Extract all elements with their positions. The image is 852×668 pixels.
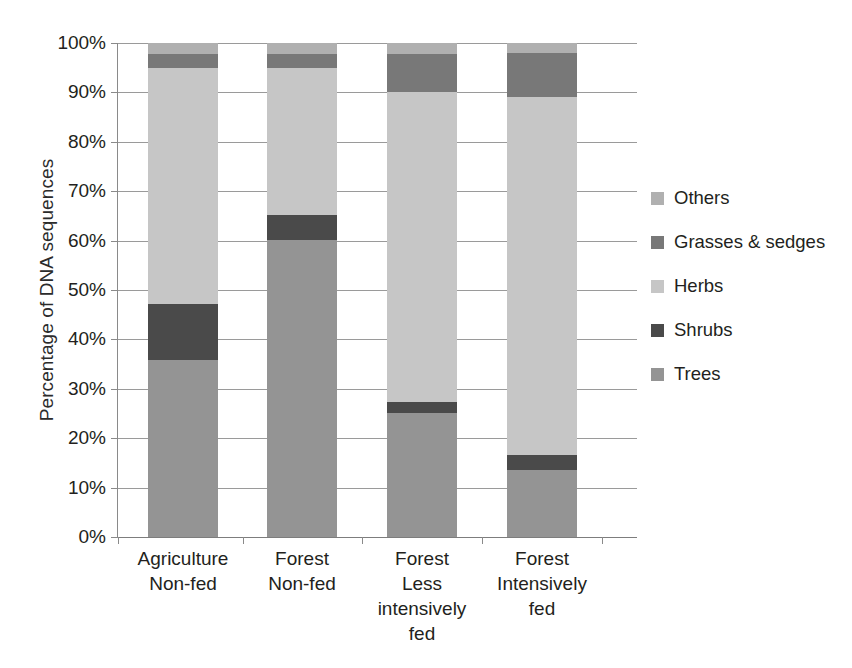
- bar-segment-herbs: [387, 92, 457, 402]
- x-category-label: ForestNon-fed: [232, 546, 372, 596]
- y-tick-label: 40%: [48, 328, 106, 350]
- y-tick-label: 90%: [48, 81, 106, 103]
- x-category-label: ForestIntensivelyfed: [472, 546, 612, 621]
- y-tick-label: 20%: [48, 427, 106, 449]
- y-tick-mark: [111, 389, 118, 390]
- bar-segment-grasses-sedges: [387, 54, 457, 93]
- bar-segment-others: [387, 43, 457, 54]
- x-tick-mark: [482, 537, 483, 544]
- bar-segment-shrubs: [267, 215, 337, 240]
- y-tick-mark: [111, 191, 118, 192]
- legend-swatch-icon: [651, 192, 664, 205]
- legend-item-shrubs: Shrubs: [651, 308, 851, 352]
- x-category-label-line: Intensively: [472, 571, 612, 596]
- bar-segment-grasses-sedges: [507, 53, 577, 97]
- x-category-label-line: Forest: [472, 546, 612, 571]
- legend-label: Shrubs: [674, 319, 733, 341]
- bar-2: [267, 43, 337, 537]
- y-tick-mark: [111, 290, 118, 291]
- y-tick-label: 50%: [48, 279, 106, 301]
- bar-3: [387, 43, 457, 537]
- legend-swatch-icon: [651, 280, 664, 293]
- y-tick-mark: [111, 488, 118, 489]
- y-tick-mark: [111, 142, 118, 143]
- x-category-label-line: intensively: [352, 596, 492, 621]
- bar-segment-grasses-sedges: [267, 54, 337, 68]
- y-tick-mark: [111, 92, 118, 93]
- x-tick-mark: [602, 537, 603, 544]
- y-tick-label: 80%: [48, 131, 106, 153]
- legend-label: Herbs: [674, 275, 723, 297]
- legend-swatch-icon: [651, 368, 664, 381]
- y-tick-label: 60%: [48, 230, 106, 252]
- x-category-label-line: fed: [472, 596, 612, 621]
- y-tick-mark: [111, 438, 118, 439]
- bar-segment-trees: [267, 240, 337, 537]
- plot-area: [118, 43, 637, 537]
- bar-segment-herbs: [148, 68, 218, 304]
- bar-segment-others: [507, 43, 577, 53]
- bar-segment-herbs: [267, 68, 337, 215]
- y-tick-mark: [111, 339, 118, 340]
- bar-segment-shrubs: [387, 402, 457, 413]
- x-category-label-line: Less: [352, 571, 492, 596]
- bar-segment-trees: [148, 360, 218, 537]
- y-tick-label: 100%: [48, 32, 106, 54]
- bar-segment-grasses-sedges: [148, 54, 218, 68]
- legend-label: Grasses & sedges: [674, 231, 825, 253]
- bar-1: [148, 43, 218, 537]
- x-category-label-line: Non-fed: [232, 571, 372, 596]
- y-tick-label: 30%: [48, 378, 106, 400]
- x-tick-mark: [118, 537, 119, 544]
- legend-item-trees: Trees: [651, 352, 851, 396]
- y-tick-label: 70%: [48, 180, 106, 202]
- legend-label: Trees: [674, 363, 721, 385]
- bar-segment-trees: [387, 413, 457, 537]
- bar-segment-others: [267, 43, 337, 54]
- y-tick-mark: [111, 43, 118, 44]
- bar-4: [507, 43, 577, 537]
- x-category-label-line: Forest: [232, 546, 372, 571]
- bar-segment-shrubs: [507, 455, 577, 470]
- y-tick-label: 0%: [48, 526, 106, 548]
- bar-segment-herbs: [507, 97, 577, 455]
- legend-item-grasses-sedges: Grasses & sedges: [651, 220, 851, 264]
- legend-swatch-icon: [651, 236, 664, 249]
- x-tick-mark: [243, 537, 244, 544]
- x-category-label-line: Forest: [352, 546, 492, 571]
- stacked-bar-chart-figure: Percentage of DNA sequences 0%10%20%30%4…: [0, 0, 852, 668]
- legend-item-herbs: Herbs: [651, 264, 851, 308]
- chart-legend: OthersGrasses & sedgesHerbsShrubsTrees: [651, 176, 851, 396]
- bar-segment-others: [148, 43, 218, 54]
- gridline: [118, 537, 637, 538]
- y-tick-mark: [111, 241, 118, 242]
- x-category-label-line: fed: [352, 621, 492, 646]
- bar-segment-shrubs: [148, 304, 218, 360]
- legend-label: Others: [674, 187, 730, 209]
- x-tick-mark: [362, 537, 363, 544]
- legend-item-others: Others: [651, 176, 851, 220]
- y-tick-mark: [111, 537, 118, 538]
- y-tick-label: 10%: [48, 477, 106, 499]
- legend-swatch-icon: [651, 324, 664, 337]
- x-category-label: ForestLessintensivelyfed: [352, 546, 492, 646]
- y-axis-tick-labels: 0%10%20%30%40%50%60%70%80%90%100%: [44, 0, 106, 538]
- bar-segment-trees: [507, 470, 577, 537]
